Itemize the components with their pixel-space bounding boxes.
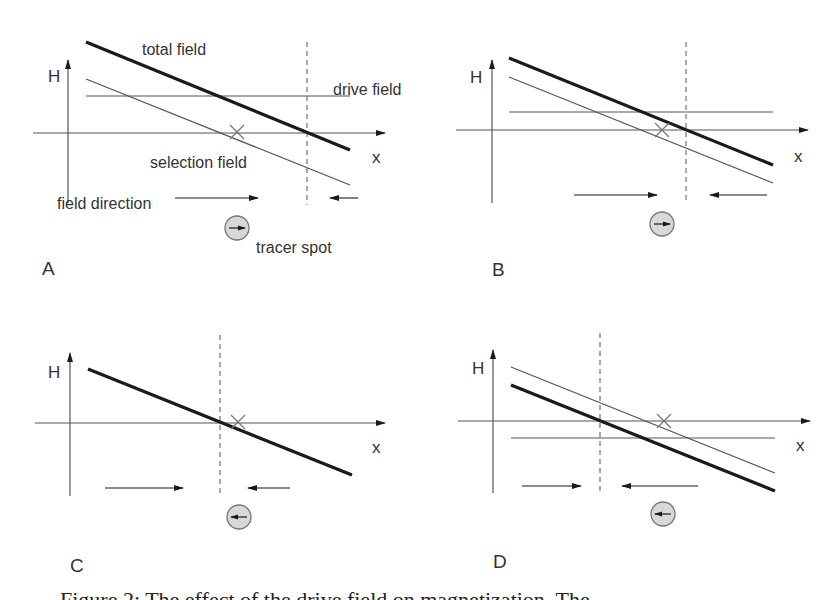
h-axis-label: H <box>470 68 482 87</box>
annotation-total-field: total field <box>142 41 206 58</box>
panel-label-c: C <box>70 555 84 576</box>
x-axis-label: x <box>794 147 803 166</box>
annotation-field-direction: field direction <box>57 195 151 212</box>
figure-four-panel-field-diagram: Hxtotal fielddrive fieldselection fieldf… <box>0 0 837 600</box>
figure-caption: Figure 2: The effect of the drive field … <box>0 582 837 600</box>
h-axis-label: H <box>48 67 60 86</box>
panels-root: Hxtotal fielddrive fieldselection fieldf… <box>33 41 810 576</box>
panel-b: HxB <box>456 42 808 280</box>
tracer-position-cross-icon <box>231 415 245 429</box>
panel-label-a: A <box>42 258 55 279</box>
tracer-spot-icon <box>227 505 251 529</box>
panel-a: Hxtotal fielddrive fieldselection fieldf… <box>33 41 401 279</box>
tracer-spot-icon <box>651 502 675 526</box>
tracer-spot-icon <box>225 216 249 240</box>
annotation-drive-field: drive field <box>333 81 401 98</box>
diagram-canvas: Hxtotal fielddrive fieldselection fieldf… <box>0 0 837 600</box>
x-axis-label: x <box>372 438 381 457</box>
h-axis-label: H <box>472 359 484 378</box>
tracer-spot-icon <box>650 212 674 236</box>
panel-d: HxD <box>458 333 810 572</box>
selection-field-line <box>511 367 775 473</box>
panel-label-d: D <box>493 551 507 572</box>
panel-label-b: B <box>492 259 505 280</box>
x-axis-label: x <box>372 148 381 167</box>
tracer-position-cross-icon <box>230 125 244 139</box>
x-axis-label: x <box>796 436 805 455</box>
panel-c: HxC <box>35 335 385 576</box>
h-axis-label: H <box>48 363 60 382</box>
annotation-selection-field: selection field <box>150 154 247 171</box>
annotation-tracer-spot: tracer spot <box>256 239 332 256</box>
